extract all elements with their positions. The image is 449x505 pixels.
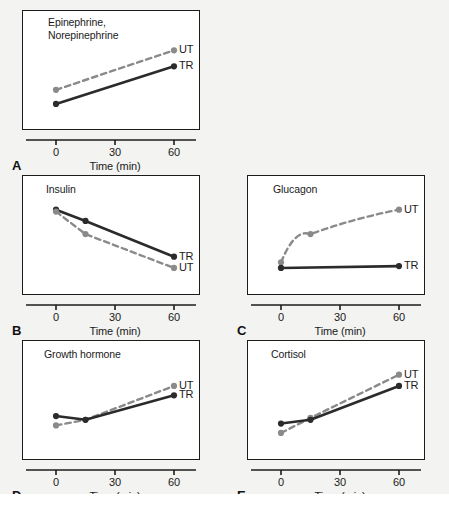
data-point-tr: [171, 254, 177, 260]
panel-plot-area: [22, 175, 200, 295]
data-point-tr: [82, 417, 88, 423]
panel-letter-a: A: [12, 158, 21, 173]
data-point-tr: [82, 218, 88, 224]
data-point-tr: [53, 101, 59, 107]
data-point-ut: [278, 430, 284, 436]
data-point-ut: [396, 372, 402, 378]
data-point-tr: [278, 265, 284, 271]
data-point-ut: [53, 422, 59, 428]
series-line-ut: [56, 212, 174, 268]
data-point-ut: [171, 383, 177, 389]
panel-letter-c: C: [237, 323, 246, 338]
series-line-ut: [281, 210, 399, 263]
data-point-tr: [171, 392, 177, 398]
data-point-tr: [396, 383, 402, 389]
x-tick-label: 0: [42, 476, 70, 488]
data-point-ut: [171, 265, 177, 271]
panel-plot-area: [22, 10, 200, 130]
data-point-tr: [396, 263, 402, 269]
x-tick-label: 0: [42, 311, 70, 323]
panel-plot-area: [247, 175, 425, 295]
x-tick-label: 60: [385, 476, 413, 488]
data-point-ut: [396, 207, 402, 213]
x-tick-label: 60: [160, 476, 188, 488]
series-line-tr: [56, 66, 174, 104]
x-axis-label: Time (min): [241, 325, 439, 337]
chart-panel-b: InsulinTRUT03060Time (min)B: [22, 175, 200, 295]
series-line-tr: [56, 210, 174, 257]
chart-panel-e: CortisolUTTR03060Time (min)E: [247, 340, 425, 460]
x-tick-label: 60: [385, 311, 413, 323]
x-tick-label: 60: [160, 311, 188, 323]
chart-panel-a: Epinephrine, NorepinephrineUTTR03060Time…: [22, 10, 200, 130]
chart-panel-c: GlucagonUTTR03060Time (min)C: [247, 175, 425, 295]
x-tick-label: 0: [267, 476, 295, 488]
series-line-tr: [281, 386, 399, 424]
data-point-ut: [171, 47, 177, 53]
x-axis-label: Time (min): [16, 160, 214, 172]
series-line-ut: [281, 375, 399, 433]
data-point-ut: [278, 259, 284, 265]
data-point-ut: [53, 208, 59, 214]
x-tick-label: 0: [267, 311, 295, 323]
hormone-response-figure: Epinephrine, NorepinephrineUTTR03060Time…: [0, 0, 449, 505]
data-point-ut: [307, 231, 313, 237]
x-tick-label: 30: [101, 146, 129, 158]
data-point-tr: [171, 63, 177, 69]
data-point-tr: [278, 420, 284, 426]
panel-plot-area: [22, 340, 200, 460]
page-bottom-margin: [0, 494, 449, 505]
x-tick-label: 60: [160, 146, 188, 158]
x-tick-label: 0: [42, 146, 70, 158]
data-point-tr: [53, 413, 59, 419]
chart-panel-d: Growth hormoneUTTR03060Time (min)D: [22, 340, 200, 460]
x-tick-label: 30: [101, 476, 129, 488]
x-tick-label: 30: [326, 476, 354, 488]
series-line-tr: [281, 266, 399, 268]
x-tick-label: 30: [101, 311, 129, 323]
x-tick-label: 30: [326, 311, 354, 323]
x-axis-label: Time (min): [16, 325, 214, 337]
panel-letter-b: B: [12, 323, 21, 338]
data-point-ut: [53, 87, 59, 93]
data-point-tr: [307, 417, 313, 423]
panel-plot-area: [247, 340, 425, 460]
data-point-ut: [82, 231, 88, 237]
